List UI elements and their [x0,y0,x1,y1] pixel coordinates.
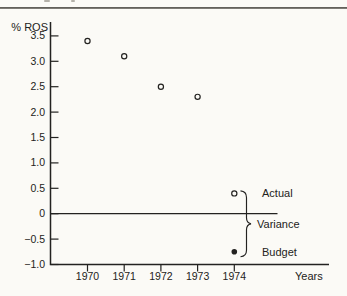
variance-brace [241,191,252,257]
y-tick-label: 3.5 [30,29,45,41]
y-tick-label: 2.0 [30,106,45,118]
annotation-label-variance: Variance [257,218,300,230]
data-point-actual-1974 [232,191,237,196]
annotation-label-budget: Budget [262,246,297,258]
x-tick-label: 1973 [186,270,210,282]
data-point-actual-1973 [195,94,200,99]
y-tick-label: 0.5 [30,182,45,194]
x-tick-label: 1970 [76,270,100,282]
ros-scatter-chart: % ROS3.53.02.52.01.51.00.50−0.5−1.019701… [0,0,347,296]
x-tick-label: 1972 [149,270,173,282]
y-tick-label: −1.0 [24,258,45,270]
y-tick-label: 3.0 [30,55,45,67]
y-tick-label: 1.0 [30,156,45,168]
x-tick-label: 1974 [223,270,247,282]
annotation-label-actual: Actual [262,187,293,199]
x-tick-label: 1971 [113,270,137,282]
y-tick-label: 2.5 [30,80,45,92]
data-point-budget-1974 [232,249,238,255]
data-point-actual-1970 [85,38,90,43]
y-tick-label: 1.5 [30,131,45,143]
data-point-actual-1971 [122,54,127,59]
y-tick-label: 0 [39,207,45,219]
y-tick-label: −0.5 [24,233,45,245]
x-axis-title: Years [295,270,323,282]
scanned-book-page: % ROS3.53.02.52.01.51.00.50−0.5−1.019701… [0,0,347,296]
data-point-actual-1972 [158,84,163,89]
